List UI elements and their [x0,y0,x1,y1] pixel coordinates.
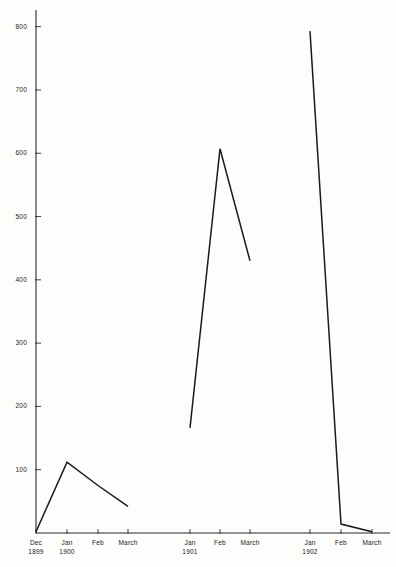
y-tick-label: 700 [5,86,27,93]
y-tick-label: 800 [5,23,27,30]
series-line [36,462,128,532]
x-tick-year: 1902 [290,548,330,557]
x-tick-label: March [230,539,270,548]
x-tick-year: 1900 [47,548,87,557]
y-tick-label: 500 [5,213,27,220]
x-tick-label: March [352,539,392,548]
x-tick-month: March [118,539,137,546]
data-series-group [36,31,372,532]
x-tick-month: Jan [61,539,72,546]
chart-plot-area [0,0,396,567]
x-tick-label: March [108,539,148,548]
x-tick-year: 1901 [170,548,210,557]
x-tick-month: March [240,539,259,546]
x-tick-month: Feb [214,539,226,546]
x-tick-month: Feb [335,539,347,546]
x-tick-month: Jan [184,539,195,546]
x-tick-month: Jan [304,539,315,546]
x-tick-month: March [362,539,381,546]
x-tick-month: Dec [30,539,42,546]
y-tick-label: 300 [5,339,27,346]
series-line [310,31,372,532]
line-chart: 100200300400500600700800 Dec1899Jan1900F… [0,0,396,567]
y-tick-label: 600 [5,149,27,156]
y-tick-label: 100 [5,466,27,473]
y-tick-label: 200 [5,402,27,409]
series-line [190,149,250,428]
x-tick-month: Feb [92,539,104,546]
y-tick-label: 400 [5,276,27,283]
